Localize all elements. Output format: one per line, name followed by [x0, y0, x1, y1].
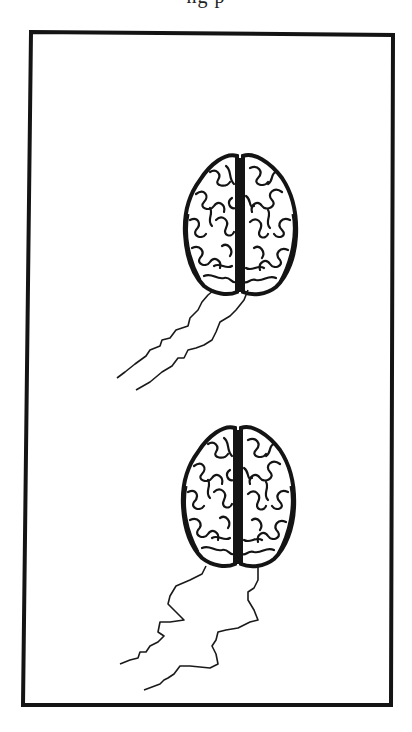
illustration — [0, 0, 412, 732]
picture-frame — [23, 32, 393, 705]
lightning-bolt-icon — [120, 566, 258, 690]
lightning-bolt-icon — [117, 290, 248, 390]
brain-icon — [183, 427, 294, 566]
brain-icon — [185, 155, 296, 294]
